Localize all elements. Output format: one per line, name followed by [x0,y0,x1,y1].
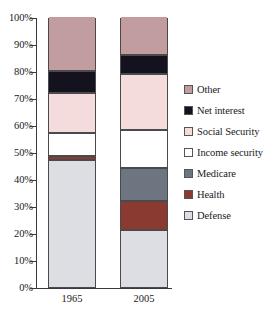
y-axis-labels: 0%10%20%30%40%50%60%70%80%90%100% [0,18,33,288]
legend-label-social-security: Social Security [197,126,259,137]
legend-label-other: Other [197,84,220,95]
legend-swatch-other [184,85,193,94]
y-tick-mark-70 [30,99,36,100]
y-tick-mark-60 [30,126,36,127]
y-tick-mark-80 [30,72,36,73]
bar-segment-2005-social-security[interactable] [121,74,167,131]
bar-segment-2005-defense[interactable] [121,230,167,287]
legend-label-net-interest: Net interest [197,105,245,116]
legend-label-defense: Defense [197,210,231,221]
x-axis-line [36,288,172,289]
legend-label-income-security: Income security [197,147,263,158]
legend-swatch-defense [184,211,193,220]
y-tick-mark-40 [30,180,36,181]
bar-segment-2005-health[interactable] [121,201,167,231]
chart-legend: OtherNet interestSocial SecurityIncome s… [184,79,279,226]
legend-swatch-medicare [184,169,193,178]
bar-segment-1965-other[interactable] [49,17,95,71]
y-tick-mark-0 [30,288,36,289]
bar-segment-1965-net-interest[interactable] [49,71,95,93]
legend-swatch-net-interest [184,106,193,115]
y-tick-mark-50 [30,153,36,154]
legend-label-medicare: Medicare [197,168,236,179]
legend-item-medicare[interactable]: Medicare [184,163,279,184]
bar-segment-2005-income-security[interactable] [121,130,167,168]
bar-segment-2005-medicare[interactable] [121,168,167,200]
y-tick-mark-10 [30,261,36,262]
legend-swatch-income-security [184,148,193,157]
y-tick-mark-20 [30,234,36,235]
legend-item-net-interest[interactable]: Net interest [184,100,279,121]
x-tick-label-1965: 1965 [42,292,102,305]
legend-swatch-health [184,190,193,199]
y-tick-mark-30 [30,207,36,208]
plot-area [36,18,172,288]
bar-segment-1965-income-security[interactable] [49,133,95,156]
x-tick-label-2005: 2005 [114,292,174,305]
bar-segment-1965-health[interactable] [49,156,95,160]
bar-segment-1965-social-security[interactable] [49,93,95,134]
bar-segment-1965-defense[interactable] [49,160,95,287]
legend-item-income-security[interactable]: Income security [184,142,279,163]
bar-1965[interactable] [48,18,96,288]
x-axis-labels: 1965 2005 [36,292,172,312]
legend-item-social-security[interactable]: Social Security [184,121,279,142]
legend-label-health: Health [197,189,224,200]
y-tick-mark-90 [30,45,36,46]
bar-2005[interactable] [120,18,168,288]
y-tick-mark-100 [30,18,36,19]
bar-segment-2005-net-interest[interactable] [121,55,167,74]
legend-item-health[interactable]: Health [184,184,279,205]
legend-item-defense[interactable]: Defense [184,205,279,226]
bar-segment-2005-other[interactable] [121,17,167,55]
stacked-bar-chart: 0%10%20%30%40%50%60%70%80%90%100% 1965 2… [0,0,279,317]
legend-swatch-social-security [184,127,193,136]
legend-item-other[interactable]: Other [184,79,279,100]
